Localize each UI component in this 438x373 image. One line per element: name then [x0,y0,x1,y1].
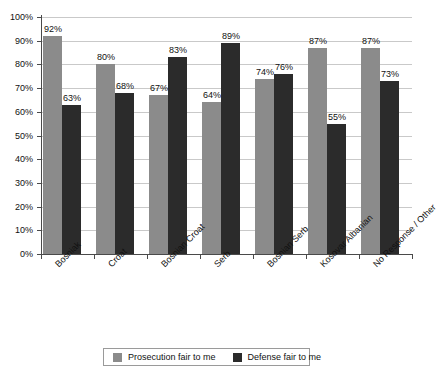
bar[interactable] [221,43,240,254]
y-axis-tick-label: 30% [15,179,33,188]
bar[interactable] [202,102,221,254]
y-axis-labels: 0%10%20%30%40%50%60%70%80%90%100% [0,0,38,254]
y-axis-tick-label: 60% [15,108,33,117]
bar[interactable] [380,81,399,254]
plot-area: 92%63%80%68%67%83%64%89%74%76%87%55%87%7… [41,17,412,254]
x-axis-tick [41,254,42,259]
bar-group: 87%55% [306,17,359,254]
bar-value-label: 89% [215,32,247,41]
x-axis-tick [359,254,360,259]
bar-value-label: 73% [374,70,406,79]
bar[interactable] [43,36,62,254]
bar-group: 92%63% [41,17,94,254]
legend-label-prosecution: Prosecution fair to me [128,353,216,362]
x-axis-tick [253,254,254,259]
bar[interactable] [274,74,293,254]
y-axis-tick-label: 50% [15,132,33,141]
bar[interactable] [96,64,115,254]
y-axis-tick-label: 70% [15,84,33,93]
legend-item-prosecution[interactable]: Prosecution fair to me [113,353,216,362]
bar-value-label: 55% [321,113,353,122]
x-axis-tick [94,254,95,259]
y-axis-tick-label: 40% [15,155,33,164]
bar-value-label: 68% [109,82,141,91]
bar-value-label: 83% [162,46,194,55]
bar[interactable] [115,93,134,254]
bar[interactable] [62,105,81,254]
bar-group: 74%76% [253,17,306,254]
legend-swatch-defense-icon [233,353,242,362]
bar[interactable] [255,79,274,254]
chart-legend: Prosecution fair to me Defense fair to m… [103,348,310,366]
y-axis-line [41,15,42,256]
bar[interactable] [327,124,346,254]
y-axis-tick-label: 90% [15,37,33,46]
bar-value-label: 87% [302,37,334,46]
bar-group: 64%89% [200,17,253,254]
bar-value-label: 87% [355,37,387,46]
legend-swatch-prosecution-icon [113,353,122,362]
bar[interactable] [308,48,327,254]
y-axis-tick-label: 100% [10,13,33,22]
bar[interactable] [168,57,187,254]
x-axis-tick [200,254,201,259]
bar-group: 80%68% [94,17,147,254]
legend-item-defense[interactable]: Defense fair to me [233,353,322,362]
x-axis-tick [147,254,148,259]
bar-group: 67%83% [147,17,200,254]
x-axis-tick [306,254,307,259]
bar[interactable] [149,95,168,254]
y-axis-tick-label: 80% [15,60,33,69]
y-axis-tick-label: 0% [20,250,33,259]
y-axis-tick-label: 10% [15,226,33,235]
y-axis-tick-label: 20% [15,203,33,212]
x-axis-tick [412,254,413,259]
bar-value-label: 76% [268,63,300,72]
legend-label-defense: Defense fair to me [248,353,322,362]
bar-value-label: 80% [90,53,122,62]
bar-value-label: 63% [56,94,88,103]
